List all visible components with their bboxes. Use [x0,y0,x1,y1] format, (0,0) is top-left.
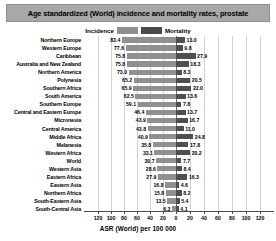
table-row: Southern Africa65.922.0 [0,84,276,92]
table-row: Australia and New Zealand75.818.3 [0,60,276,68]
incidence-cell: 59.1 [84,100,176,108]
category-label: Polynesia [0,77,84,83]
mortality-value: 8.4 [183,166,190,172]
mortality-cell: 8.3 [176,68,274,76]
axis-tick-label: 100 [107,215,116,221]
category-label: Melanesia [0,142,84,148]
incidence-value: 13.5 [156,198,166,204]
category-label: Northern Europe [0,37,84,43]
table-row: Northern Africa15.88.2 [0,189,276,197]
category-label: Australia and New Zealand [0,61,84,67]
incidence-cell: 35.8 [84,141,176,149]
incidence-value: 65.9 [122,85,132,91]
table-row: Western Africa33.120.2 [0,149,276,157]
incidence-value: 40.9 [138,134,148,140]
table-row: Middle Africa40.924.8 [0,133,276,141]
mortality-value: 5.4 [181,198,188,204]
category-label: South America [0,93,84,99]
legend-swatch-incidence [117,27,138,34]
mortality-bar [176,61,189,66]
incidence-bar [167,198,176,203]
chart-container: Age standardized (World) incidence and m… [0,0,276,241]
axis-title: ASR (World) per 100 000 [0,225,276,232]
mortality-bar [176,174,187,179]
mortality-cell: 5.4 [176,197,274,205]
axis-tick-label: 120 [256,215,265,221]
axis-tick [204,211,205,214]
incidence-bar [134,78,176,83]
incidence-value: 75.8 [115,61,125,67]
axis-tick [111,211,112,214]
incidence-bar [166,190,176,195]
category-label: Middle Africa [0,134,84,140]
incidence-bar [147,118,176,123]
table-row: Western Asia28.68.4 [0,165,276,173]
category-label: Central and Eastern Europe [0,109,84,115]
mortality-value: 20.5 [192,77,202,83]
category-label: Northern Africa [0,190,84,196]
incidence-bar [126,45,176,50]
incidence-bar [129,70,176,75]
mortality-value: 8.2 [183,190,190,196]
table-row: Northern America73.08.3 [0,68,276,76]
axis-tick [218,211,219,214]
mortality-bar [176,166,182,171]
mortality-cell: 9.8 [176,44,274,52]
bar-rows: Northern Europe83.413.0Western Europe77.… [0,36,276,213]
mortality-cell: 18.3 [176,60,274,68]
incidence-cell: 62.5 [84,92,176,100]
axis-tick-label: 100 [242,215,251,221]
incidence-value: 43.9 [136,117,146,123]
table-row: Eastern Asia16.84.6 [0,181,276,189]
incidence-value: 83.4 [110,37,120,43]
mortality-cell: 27.9 [176,52,274,60]
axis-tick [98,211,99,214]
mortality-value: 27.9 [197,53,207,59]
incidence-cell: 27.9 [84,173,176,181]
table-row: South-Eastern Asia13.55.4 [0,197,276,205]
axis-tick [124,211,125,214]
axis-tick [190,211,191,214]
incidence-cell: 30.7 [84,157,176,165]
mortality-value: 13.0 [187,37,197,43]
axis-tick-label: 60 [134,215,140,221]
mortality-bar [176,102,181,107]
mortality-value: 4.6 [181,182,188,188]
category-label: Eastern Asia [0,182,84,188]
table-row: Western Europe77.69.8 [0,44,276,52]
mortality-cell: 22.0 [176,84,274,92]
incidence-bar [148,126,176,131]
mortality-bar [176,53,196,58]
incidence-bar [127,61,176,66]
mortality-value: 13.7 [187,109,197,115]
mortality-bar [176,190,182,195]
incidence-cell: 13.5 [84,197,176,205]
category-label: Micronesia [0,117,84,123]
mortality-value: 17.8 [190,142,200,148]
mortality-bar [176,142,188,147]
category-label: Western Europe [0,45,84,51]
mortality-value: 22.0 [193,85,203,91]
incidence-value: 62.5 [124,93,134,99]
table-row: Eastern Africa27.916.3 [0,173,276,181]
mortality-cell: 13.7 [176,108,274,116]
axis-tick [260,211,261,214]
category-label: Eastern Africa [0,174,84,180]
axis-tick-label: 20 [160,215,166,221]
mortality-value: 13.6 [187,93,197,99]
incidence-cell: 33.1 [84,149,176,157]
mortality-bar [176,134,193,139]
incidence-cell: 65.9 [84,84,176,92]
mortality-cell: 7.8 [176,100,274,108]
mortality-cell: 24.8 [176,133,274,141]
table-row: World30.77.7 [0,157,276,165]
table-row: Melanesia35.817.8 [0,141,276,149]
mortality-value: 16.3 [189,174,199,180]
mortality-value: 7.8 [183,101,190,107]
legend-label-incidence: Incidence [85,27,114,34]
axis-tick-label: 40 [201,215,207,221]
incidence-cell: 43.9 [84,116,176,124]
incidence-value: 65.2 [122,77,132,83]
mortality-bar [176,86,191,91]
incidence-bar [156,158,176,163]
